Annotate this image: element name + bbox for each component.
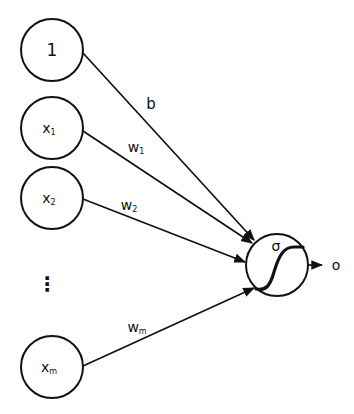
output-label: o: [332, 257, 341, 273]
input-node-xm: xm: [21, 336, 83, 398]
edge-wm: [83, 288, 254, 366]
edge-w1: [83, 131, 252, 243]
ellipsis-dots: ⋮: [37, 272, 57, 296]
weight-label-w1: w1: [128, 139, 145, 156]
perceptron-diagram: 1 x1 x2 ⋮ xm b w1 w2 wm σ o: [0, 0, 354, 414]
neuron-node: σ: [246, 234, 308, 296]
edge-w2: [83, 199, 245, 262]
weight-label-wm: wm: [127, 319, 146, 336]
input-label-bias: 1: [47, 40, 58, 60]
input-node-bias: 1: [21, 19, 83, 81]
input-node-x1: x1: [21, 97, 83, 159]
activation-label: σ: [272, 238, 281, 254]
input-node-x2: x2: [21, 167, 83, 229]
weight-label-w2: w2: [121, 197, 138, 214]
weight-label-b: b: [146, 95, 156, 113]
edge-bias: [83, 53, 254, 240]
